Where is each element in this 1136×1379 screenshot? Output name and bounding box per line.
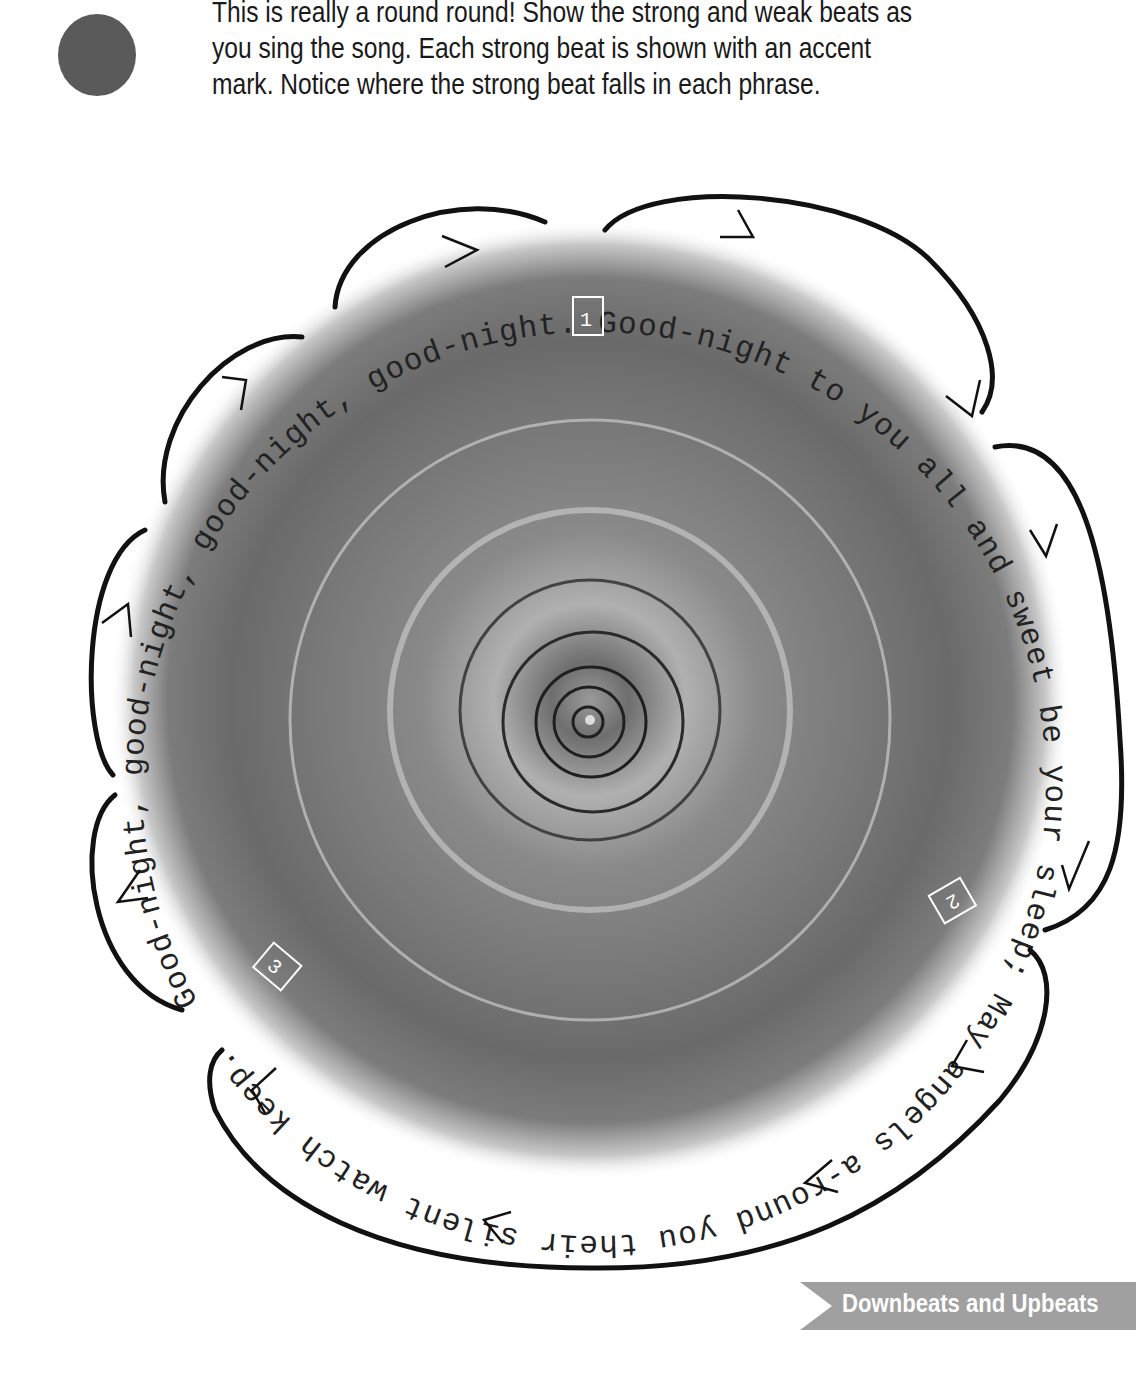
record-disc: [110, 220, 1070, 1180]
section-title: Downbeats and Upbeats: [842, 1288, 1099, 1319]
round-illustration: Good-night, good-night, good-night, good…: [0, 0, 1136, 1379]
accent-mark-icon: [720, 210, 753, 237]
svg-text:1: 1: [580, 309, 592, 332]
